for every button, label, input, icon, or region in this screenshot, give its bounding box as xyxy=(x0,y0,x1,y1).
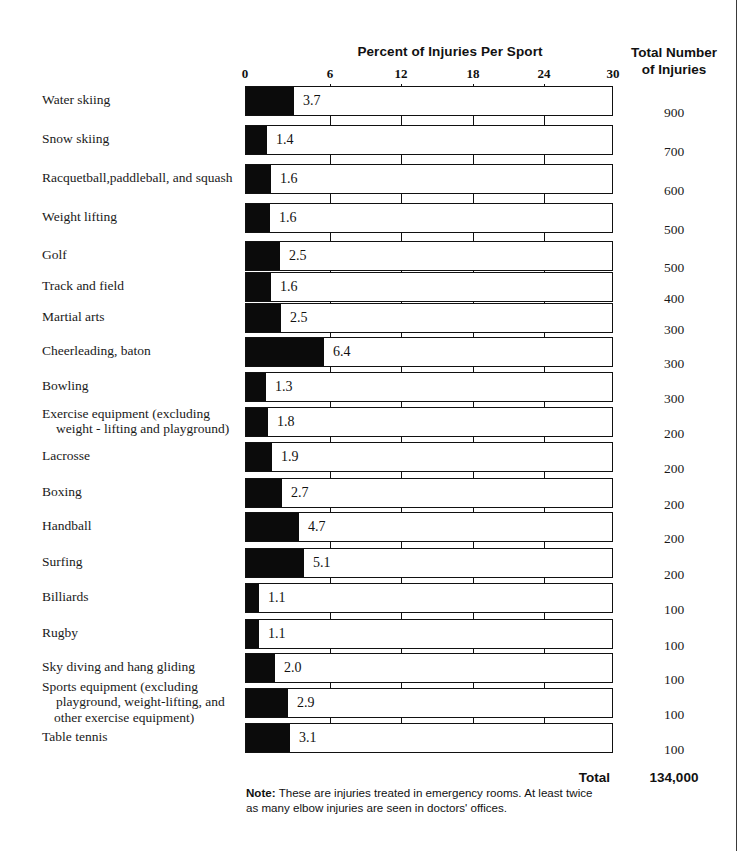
bar-value-label: 1.3 xyxy=(275,379,293,395)
bar-fill xyxy=(246,242,280,270)
chart-row: Racquetball,paddleball, and squash1.6600 xyxy=(0,164,751,194)
bar-value-label: 2.9 xyxy=(297,695,315,711)
row-total-injuries: 200 xyxy=(614,426,734,442)
bar-fill xyxy=(246,126,267,154)
bar-value-label: 4.7 xyxy=(308,519,326,535)
category-label: Sky diving and hang gliding xyxy=(42,659,238,675)
category-label-line: Handball xyxy=(42,518,238,534)
bar-track: 1.6 xyxy=(245,164,613,194)
category-label-line: Sky diving and hang gliding xyxy=(42,659,238,675)
bar-fill xyxy=(246,87,294,115)
category-label-line: Exercise equipment (excluding xyxy=(42,406,238,422)
bar-track: 1.1 xyxy=(245,619,613,649)
category-label: Sports equipment (excludingplayground, w… xyxy=(42,679,238,726)
category-label-line: Boxing xyxy=(42,484,238,500)
bar-fill xyxy=(246,549,304,577)
category-label-line: Racquetball,paddleball, and squash xyxy=(42,170,238,186)
chart-row: Boxing2.7200 xyxy=(0,478,751,508)
x-axis-tick-label-30: 30 xyxy=(607,66,620,82)
row-total-injuries: 300 xyxy=(614,356,734,372)
chart-row: Cheerleading, baton6.4300 xyxy=(0,337,751,367)
row-total-injuries: 100 xyxy=(614,638,734,654)
bar-fill xyxy=(246,165,271,193)
category-label: Billiards xyxy=(42,589,238,605)
row-total-injuries: 300 xyxy=(614,391,734,407)
bar-value-label: 1.6 xyxy=(280,171,298,187)
chart-row: Handball4.7200 xyxy=(0,512,751,542)
row-total-injuries: 100 xyxy=(614,742,734,758)
bar-track: 1.4 xyxy=(245,125,613,155)
bar-track: 6.4 xyxy=(245,337,613,367)
category-label: Exercise equipment (excludingweight - li… xyxy=(42,406,238,437)
row-total-injuries: 300 xyxy=(614,322,734,338)
bar-fill xyxy=(246,479,282,507)
category-label: Racquetball,paddleball, and squash xyxy=(42,170,238,186)
bar-value-label: 1.9 xyxy=(281,449,299,465)
row-total-injuries: 600 xyxy=(614,183,734,199)
row-total-injuries: 100 xyxy=(614,602,734,618)
category-label: Snow skiing xyxy=(42,131,238,147)
category-label: Bowling xyxy=(42,378,238,394)
bar-fill xyxy=(246,620,259,648)
chart-row: Track and field1.6400 xyxy=(0,272,751,302)
bar-value-label: 2.7 xyxy=(291,485,309,501)
chart-row: Sports equipment (excludingplayground, w… xyxy=(0,688,751,718)
chart-note: Note: These are injuries treated in emer… xyxy=(246,786,606,815)
chart-row: Golf2.5500 xyxy=(0,241,751,271)
totals-header-line2: of Injuries xyxy=(614,61,734,78)
category-label-line: Water skiing xyxy=(42,92,238,108)
bar-track: 1.3 xyxy=(245,372,613,402)
category-label: Lacrosse xyxy=(42,448,238,464)
injuries-per-sport-chart: Percent of Injuries Per Sport Total Numb… xyxy=(0,0,751,851)
grand-total-label: Total xyxy=(470,770,610,785)
bar-track: 2.0 xyxy=(245,653,613,683)
bar-track: 5.1 xyxy=(245,548,613,578)
bar-fill xyxy=(246,204,270,232)
bar-value-label: 5.1 xyxy=(313,555,331,571)
totals-column-header: Total Number of Injuries xyxy=(614,44,734,78)
bar-track: 3.1 xyxy=(245,723,613,753)
chart-row: Weight lifting1.6500 xyxy=(0,203,751,233)
chart-note-text: These are injuries treated in emergency … xyxy=(246,786,592,814)
category-label-line: Snow skiing xyxy=(42,131,238,147)
bar-fill xyxy=(246,408,268,436)
category-label-line: Track and field xyxy=(42,278,238,294)
category-label-line: playground, weight-lifting, and xyxy=(42,694,238,710)
chart-row: Rugby1.1100 xyxy=(0,619,751,649)
grand-total-value: 134,000 xyxy=(614,770,734,785)
category-label-line: Billiards xyxy=(42,589,238,605)
bar-track: 2.5 xyxy=(245,303,613,333)
bar-value-label: 2.5 xyxy=(290,310,308,326)
bar-track: 2.7 xyxy=(245,478,613,508)
bar-track: 4.7 xyxy=(245,512,613,542)
category-label: Boxing xyxy=(42,484,238,500)
chart-row: Lacrosse1.9200 xyxy=(0,442,751,472)
bar-track: 2.5 xyxy=(245,241,613,271)
category-label-line: Surfing xyxy=(42,554,238,570)
row-total-injuries: 200 xyxy=(614,497,734,513)
bar-track: 2.9 xyxy=(245,688,613,718)
bar-fill xyxy=(246,304,281,332)
chart-row: Snow skiing1.4700 xyxy=(0,125,751,155)
bar-fill xyxy=(246,273,271,301)
bar-fill xyxy=(246,584,259,612)
bar-value-label: 3.7 xyxy=(303,93,321,109)
row-total-injuries: 100 xyxy=(614,707,734,723)
category-label-line: Sports equipment (excluding xyxy=(42,679,238,695)
category-label: Golf xyxy=(42,247,238,263)
bar-fill xyxy=(246,373,266,401)
bar-track: 1.9 xyxy=(245,442,613,472)
row-total-injuries: 200 xyxy=(614,531,734,547)
category-label: Cheerleading, baton xyxy=(42,343,238,359)
bar-track: 1.8 xyxy=(245,407,613,437)
category-label: Weight lifting xyxy=(42,209,238,225)
chart-row: Bowling1.3300 xyxy=(0,372,751,402)
x-axis-tick-label-0: 0 xyxy=(242,66,249,82)
bar-value-label: 1.4 xyxy=(276,132,294,148)
bar-value-label: 1.8 xyxy=(277,414,295,430)
chart-row: Table tennis3.1100 xyxy=(0,723,751,753)
bar-value-label: 2.5 xyxy=(289,248,307,264)
category-label-line: Weight lifting xyxy=(42,209,238,225)
bar-track: 3.7 xyxy=(245,86,613,116)
bar-fill xyxy=(246,443,272,471)
